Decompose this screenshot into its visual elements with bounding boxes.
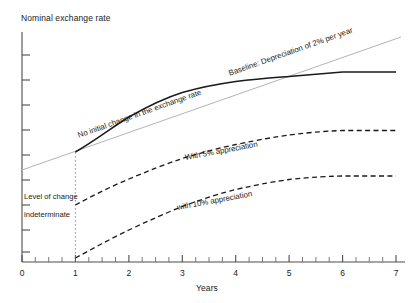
exchange-rate-chart: Nominal exchange rate <box>0 0 409 303</box>
y-axis-ticks <box>22 55 30 252</box>
x-tick-label-0: 0 <box>14 268 30 278</box>
series-ten-percent-line <box>75 176 396 258</box>
x-axis-minor-ticks <box>35 257 382 262</box>
indeterminate-note-line-1: Level of change <box>24 192 78 201</box>
x-tick-label-1: 1 <box>67 268 83 278</box>
x-axis-label: Years <box>196 283 218 293</box>
series-no-initial-change-line <box>75 72 396 152</box>
x-tick-label-6: 6 <box>335 268 351 278</box>
x-tick-label-4: 4 <box>228 268 244 278</box>
x-tick-label-5: 5 <box>281 268 297 278</box>
x-tick-label-2: 2 <box>121 268 137 278</box>
x-tick-label-7: 7 <box>388 268 404 278</box>
indeterminate-note-line-2: indeterminate <box>24 210 70 219</box>
x-tick-label-3: 3 <box>174 268 190 278</box>
